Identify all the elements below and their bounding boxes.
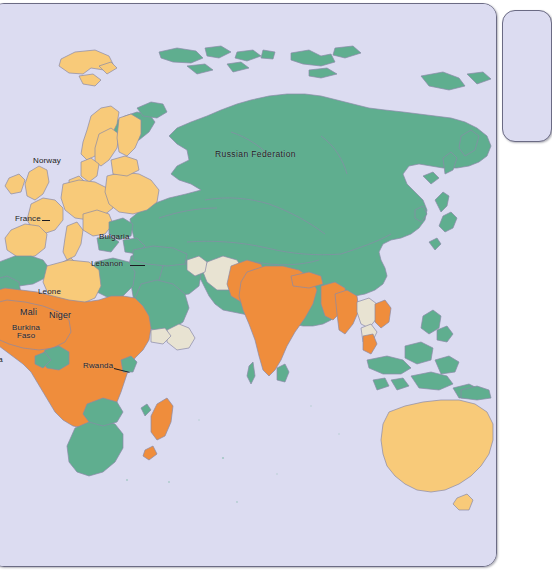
world-map-graphic: .g { fill:#5fae8f; } .o { fill:#ef8d3c; … [0, 4, 496, 566]
map-label-bulgaria: Bulgaria [99, 233, 130, 241]
map-label-mali: Mali [20, 308, 37, 317]
map-label-niger: Niger [49, 311, 71, 320]
map-label-rwanda: Rwanda [83, 362, 113, 370]
world-map-panel[interactable]: .g { fill:#5fae8f; } .o { fill:#ef8d3c; … [0, 3, 497, 567]
label-leader-line-france [42, 220, 50, 221]
map-label-lebanon: Lebanon [91, 260, 123, 268]
map-label-france: France [15, 215, 41, 223]
map-label-sierra-leone-clipped: erra [0, 356, 3, 364]
map-label-russian-federation: Russian Federation [215, 150, 296, 159]
label-leader-line-lebanon [130, 265, 145, 266]
map-label-burkina-faso: Burkina Faso [12, 324, 40, 341]
map-label-leone: Leone [38, 288, 61, 296]
map-label-burkina-line2: Faso [17, 331, 35, 340]
adjacent-panel[interactable] [502, 10, 552, 142]
map-label-norway: Norway [33, 157, 61, 165]
